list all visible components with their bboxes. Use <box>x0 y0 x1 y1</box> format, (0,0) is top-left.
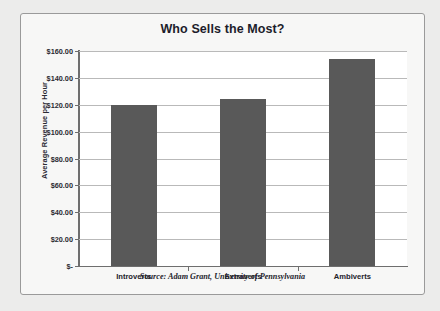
y-tick-mark <box>75 212 79 213</box>
y-tick-label: $40.00 <box>51 208 73 217</box>
bar-ambiverts[interactable] <box>329 59 375 266</box>
y-tick-mark <box>75 185 79 186</box>
gridline <box>79 51 407 52</box>
y-tick-label: $80.00 <box>51 154 73 163</box>
bar-extraverts[interactable] <box>220 99 266 266</box>
bar-introverts[interactable] <box>111 105 157 266</box>
y-tick-mark <box>75 159 79 160</box>
y-tick-label: $20.00 <box>51 235 73 244</box>
y-tick-label: $140.00 <box>47 73 73 82</box>
y-tick-mark <box>75 78 79 79</box>
x-separator-tick <box>188 267 189 271</box>
chart-title: Who Sells the Most? <box>21 22 424 36</box>
y-tick-label: $- <box>67 262 74 271</box>
y-tick-label: $60.00 <box>51 181 73 190</box>
x-separator-tick <box>298 267 299 271</box>
y-tick-label: $120.00 <box>47 100 73 109</box>
y-tick-label: $100.00 <box>47 127 73 136</box>
y-tick-mark <box>75 132 79 133</box>
y-tick-mark <box>75 51 79 52</box>
source-note: Source: Adam Grant, University of Pennsy… <box>21 272 424 281</box>
plot-wrap: $-$20.00$40.00$60.00$80.00$100.00$120.00… <box>79 51 407 266</box>
y-tick-mark <box>75 239 79 240</box>
chart-card: Who Sells the Most? Average Revenue per … <box>20 13 425 295</box>
y-tick-label: $160.00 <box>47 47 73 56</box>
y-tick-mark <box>75 105 79 106</box>
x-axis-line <box>78 266 408 267</box>
